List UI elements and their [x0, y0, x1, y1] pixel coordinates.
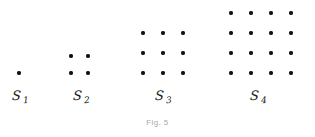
- dot: [289, 71, 293, 75]
- group-label-s3-subscript: 3: [165, 95, 172, 105]
- dot: [141, 51, 145, 55]
- group-label-s1: S1: [12, 88, 29, 105]
- figure-caption: Fig. 5: [0, 118, 315, 127]
- dot: [141, 31, 145, 35]
- dot: [269, 51, 273, 55]
- group-label-s2-subscript: 2: [83, 95, 90, 105]
- group-label-s2-base: S: [72, 88, 82, 103]
- dot: [229, 71, 233, 75]
- group-label-s1-base: S: [11, 88, 21, 103]
- group-label-s2: S2: [73, 88, 90, 105]
- dot: [249, 71, 253, 75]
- dot: [161, 71, 165, 75]
- dot: [229, 11, 233, 15]
- dot: [269, 71, 273, 75]
- group-label-s1-subscript: 1: [22, 95, 29, 105]
- dot: [289, 11, 293, 15]
- dot: [69, 54, 73, 58]
- dot: [269, 11, 273, 15]
- dot: [181, 31, 185, 35]
- group-label-s4: S4: [250, 88, 267, 105]
- group-label-s4-base: S: [249, 88, 259, 103]
- dot: [161, 51, 165, 55]
- dot: [229, 51, 233, 55]
- dot: [17, 71, 21, 75]
- dot: [141, 71, 145, 75]
- dot: [161, 31, 165, 35]
- dot: [181, 51, 185, 55]
- dot: [249, 31, 253, 35]
- group-label-s3-base: S: [154, 88, 164, 103]
- dot: [289, 51, 293, 55]
- dot: [86, 71, 90, 75]
- dot: [289, 31, 293, 35]
- dot: [229, 31, 233, 35]
- group-label-s4-subscript: 4: [260, 95, 267, 105]
- dot: [86, 54, 90, 58]
- dot: [249, 51, 253, 55]
- group-label-s3: S3: [155, 88, 172, 105]
- dot: [69, 71, 73, 75]
- dot: [269, 31, 273, 35]
- figure-5: S1 S2 S3 S4 Fig. 5: [0, 0, 315, 137]
- dot: [249, 11, 253, 15]
- dot: [181, 71, 185, 75]
